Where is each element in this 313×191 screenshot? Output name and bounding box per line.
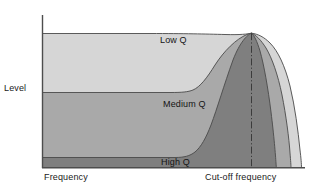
chart-plot-area xyxy=(0,0,313,191)
series-label-medium-q: Medium Q xyxy=(163,99,206,109)
x-axis-label-frequency: Frequency xyxy=(44,172,88,182)
series-label-high-q: High Q xyxy=(161,157,190,167)
series-label-low-q: Low Q xyxy=(160,35,187,45)
y-axis-label: Level xyxy=(4,83,26,93)
x-axis-label-cutoff-frequency: Cut-off frequency xyxy=(205,172,276,182)
filter-q-chart: Level Frequency Cut-off frequency Low Q … xyxy=(0,0,313,191)
